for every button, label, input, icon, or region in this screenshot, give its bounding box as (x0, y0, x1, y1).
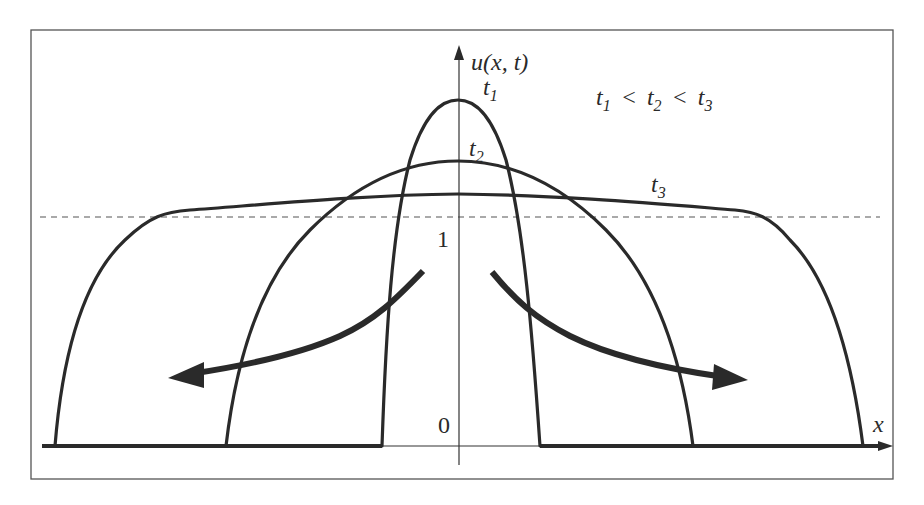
time-ordering-text: t1<t2<t3 (596, 84, 712, 114)
left-arrow-head-icon (168, 362, 204, 388)
level-one-label: 1 (437, 226, 449, 252)
curve-t3-label: t3 (651, 171, 666, 201)
origin-label: 0 (438, 412, 450, 438)
x-axis-label: x (872, 411, 884, 437)
curve-t1-label: t1 (483, 74, 498, 104)
y-axis-arrow-icon (454, 45, 464, 60)
x-axis-arrow-icon (878, 441, 893, 451)
curve-t2-label: t2 (469, 135, 484, 165)
figure-frame (31, 30, 893, 479)
curve-t1 (382, 100, 540, 446)
right-arrow-head-icon (712, 364, 748, 390)
y-axis-label: u(x, t) (471, 49, 528, 75)
diffusion-diagram: u(x, t) x 0 1 t1 t2 t3 t1<t2<t3 (0, 0, 924, 505)
